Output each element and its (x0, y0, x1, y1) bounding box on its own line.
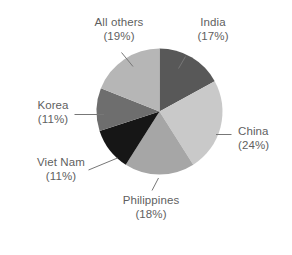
pie-chart: All others (19%) India (17%) China (24%)… (0, 0, 292, 255)
pie-label-china-name: China (238, 125, 292, 139)
pie-label-philippines-percent: (18%) (108, 208, 194, 222)
pie-label-china: China (24%) (238, 125, 292, 152)
pie-label-korea-percent: (11%) (20, 113, 86, 127)
pie-label-viet-nam: Viet Nam (11%) (22, 156, 100, 183)
pie-label-all-others-name: All others (76, 16, 162, 30)
pie-label-all-others: All others (19%) (76, 16, 162, 43)
leader-line-philippines (152, 178, 159, 191)
pie-label-india: India (17%) (182, 16, 244, 43)
pie-slices (96, 49, 222, 175)
pie-label-all-others-percent: (19%) (76, 30, 162, 44)
pie-label-viet-nam-name: Viet Nam (22, 156, 100, 170)
pie-label-china-percent: (24%) (238, 139, 292, 153)
pie-label-philippines-name: Philippines (108, 194, 194, 208)
pie-label-india-percent: (17%) (182, 30, 244, 44)
pie-label-india-name: India (182, 16, 244, 30)
pie-label-korea: Korea (11%) (20, 99, 86, 126)
pie-label-korea-name: Korea (20, 99, 86, 113)
pie-label-viet-nam-percent: (11%) (22, 170, 100, 184)
pie-label-philippines: Philippines (18%) (108, 194, 194, 221)
